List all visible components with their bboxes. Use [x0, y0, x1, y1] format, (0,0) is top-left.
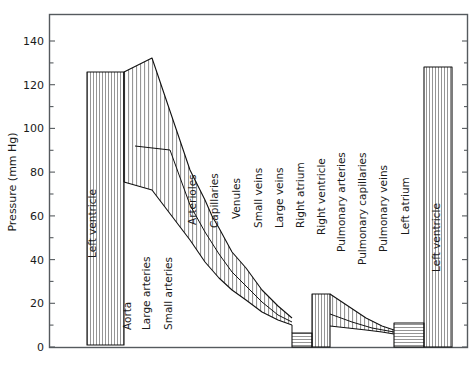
band-left-atrium — [394, 323, 424, 347]
y-axis-ticks-left — [50, 41, 56, 347]
label-arterioles: Arterioles — [186, 174, 198, 225]
label-right-atrium: Right atrium — [294, 162, 306, 228]
y-tick-80: 80 — [30, 166, 44, 179]
y-tick-40: 40 — [30, 254, 44, 267]
y-tick-60: 60 — [30, 210, 44, 223]
y-tick-140: 140 — [23, 35, 44, 48]
label-capillaries: Capillaries — [208, 173, 220, 228]
label-venules: Venules — [230, 178, 242, 219]
label-left-ventricle-2: Left ventricle — [430, 203, 442, 272]
label-pulmonary-veins: Pulmonary veins — [377, 165, 389, 252]
label-right-ventricle: Right ventricle — [315, 158, 327, 235]
band-right-atrium — [292, 333, 312, 347]
label-left-ventricle-1: Left ventricle — [86, 189, 98, 258]
y-tick-120: 120 — [23, 79, 44, 92]
chart-svg: 140 120 100 80 60 40 20 0 Pressure (mm H… — [0, 0, 476, 366]
label-large-veins: Large veins — [273, 167, 285, 228]
label-left-atrium: Left atrium — [399, 177, 411, 235]
y-axis-ticks-right — [462, 41, 468, 347]
label-pulmonary-arteries: Pulmonary arteries — [335, 152, 347, 252]
y-tick-20: 20 — [30, 297, 44, 310]
label-pulmonary-capillaries: Pulmonary capillaries — [356, 152, 368, 265]
y-tick-labels: 140 120 100 80 60 40 20 0 — [23, 35, 44, 354]
y-tick-0: 0 — [37, 341, 44, 354]
label-large-arteries: Large arteries — [140, 257, 152, 330]
band-right-ventricle — [312, 294, 330, 347]
label-small-veins: Small veins — [252, 168, 264, 228]
y-axis-title: Pressure (mm Hg) — [6, 132, 19, 231]
y-tick-100: 100 — [23, 122, 44, 135]
pressure-profile-figure: 140 120 100 80 60 40 20 0 Pressure (mm H… — [0, 0, 476, 366]
label-aorta: Aorta — [121, 302, 133, 330]
band-pulmonary-vessels — [326, 288, 400, 344]
label-small-arteries: Small arteries — [162, 257, 174, 330]
